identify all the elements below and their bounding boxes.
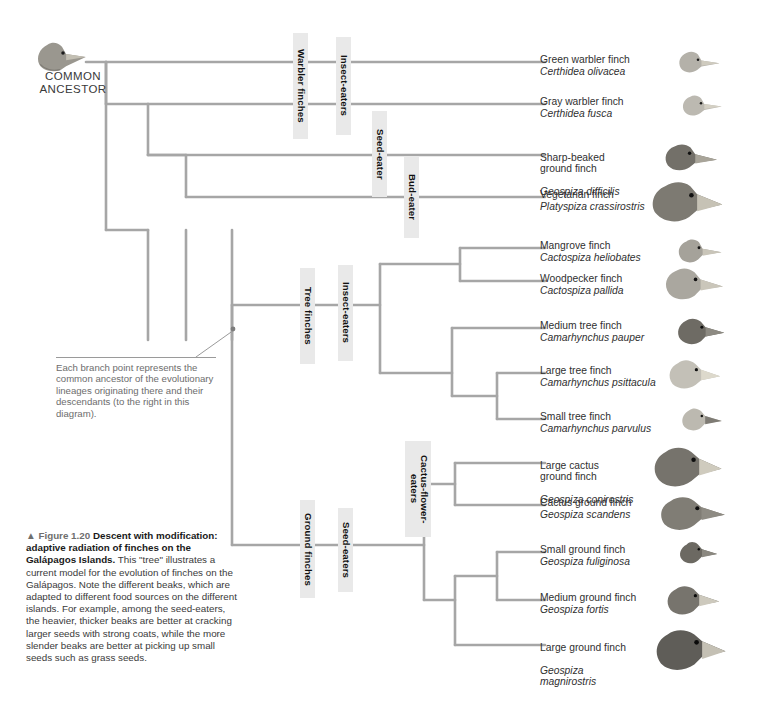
species-common-name: Small ground finch: [540, 544, 675, 556]
bird-head-gray-warbler-finch: [676, 90, 726, 119]
species-scientific-name: Cactospiza pallida: [540, 285, 675, 297]
species-label-gray-warbler-finch: Gray warbler finch Certhidea fusca: [540, 96, 675, 119]
clade-label-insect-eaters-tree: Insect-eaters: [338, 265, 353, 361]
species-scientific-name: Cactospiza heliobates: [540, 252, 675, 264]
caption-triangle-icon: ▲: [26, 530, 36, 541]
species-label-small-ground-finch: Small ground finch Geospiza fuliginosa: [540, 544, 675, 567]
species-common-name: Cactus ground finch: [540, 497, 675, 509]
species-common-name: Medium tree finch: [540, 320, 675, 332]
species-common-name: Medium ground finch: [540, 592, 675, 604]
bird-head-mangrove-finch: [672, 234, 726, 266]
species-scientific-name: Camarhynchus pauper: [540, 332, 675, 344]
species-label-woodpecker-finch: Woodpecker finch Cactospiza pallida: [540, 273, 675, 296]
species-scientific-name: Certhidea fusca: [540, 108, 675, 120]
species-label-green-warbler-finch: Green warbler finch Certhidea olivacea: [540, 54, 675, 77]
bird-head-sharp-beaked-ground-finch: [660, 140, 722, 173]
species-common-name: Small tree finch: [540, 411, 675, 423]
clade-label-bud-eater: Bud-eater: [404, 156, 419, 238]
species-scientific-name: Certhidea olivacea: [540, 66, 675, 78]
species-scientific-name: Geospiza scandens: [540, 509, 675, 521]
figure-caption-body: This "tree" illustrates a current model …: [26, 554, 237, 663]
clade-label-cactus-flower-eaters: Cactus-flower- eaters: [405, 441, 431, 537]
species-label-cactus-ground-finch: Cactus ground finch Geospiza scandens: [540, 497, 675, 520]
figure-canvas: COMMON ANCESTOR Warbler finches Insect-e…: [0, 0, 768, 711]
bird-head-large-cactus-ground-finch: [650, 444, 726, 488]
branch-point-note: Each branch point represents the common …: [56, 362, 216, 419]
bird-head-cactus-ground-finch: [656, 492, 728, 532]
common-ancestor-label: COMMON ANCESTOR: [18, 70, 128, 96]
bird-head-green-warbler-finch: [672, 46, 724, 76]
clade-label-seed-eater: Seed-eater: [372, 111, 387, 197]
species-label-medium-ground-finch: Medium ground finch Geospiza fortis: [540, 592, 675, 615]
bird-head-large-ground-finch: [652, 626, 730, 672]
bird-head-medium-tree-finch: [672, 314, 728, 347]
bird-head-large-tree-finch: [664, 356, 724, 391]
clade-label-warbler-finches: Warbler finches: [293, 33, 308, 139]
note-rule: [56, 357, 216, 358]
species-common-name: Gray warbler finch: [540, 96, 675, 108]
species-common-name: Sharp-beaked ground finch: [540, 152, 675, 175]
species-common-name: Green warbler finch: [540, 54, 675, 66]
species-scientific-name: Geospiza fuliginosa: [540, 556, 675, 568]
species-common-name: Large tree finch: [540, 365, 675, 377]
species-scientific-name: Camarhynchus psittacula: [540, 377, 675, 389]
clade-label-tree-finches: Tree finches: [300, 268, 315, 364]
bird-head-small-tree-finch: [676, 404, 726, 433]
bird-head-medium-ground-finch: [662, 582, 724, 617]
species-scientific-name: Geospiza fortis: [540, 604, 675, 616]
bird-head-woodpecker-finch: [660, 264, 726, 302]
bird-head-vegetarian-finch: [648, 178, 728, 224]
figure-number: Figure 1.20: [38, 530, 90, 541]
clade-label-seed-eaters: Seed-eaters: [338, 508, 353, 592]
species-label-mangrove-finch: Mangrove finch Cactospiza heliobates: [540, 240, 675, 263]
species-label-medium-tree-finch: Medium tree finch Camarhynchus pauper: [540, 320, 675, 343]
figure-caption: ▲ Figure 1.20 Descent with modification:…: [26, 530, 240, 664]
species-label-small-tree-finch: Small tree finch Camarhynchus parvulus: [540, 411, 675, 434]
clade-label-ground-finches: Ground finches: [300, 500, 315, 598]
species-common-name: Woodpecker finch: [540, 273, 675, 285]
clade-label-insect-eaters-warbler: Insect-eaters: [336, 37, 351, 135]
species-scientific-name: Camarhynchus parvulus: [540, 423, 675, 435]
species-common-name: Mangrove finch: [540, 240, 675, 252]
bird-head-small-ground-finch: [674, 538, 722, 566]
species-label-large-tree-finch: Large tree finch Camarhynchus psittacula: [540, 365, 675, 388]
